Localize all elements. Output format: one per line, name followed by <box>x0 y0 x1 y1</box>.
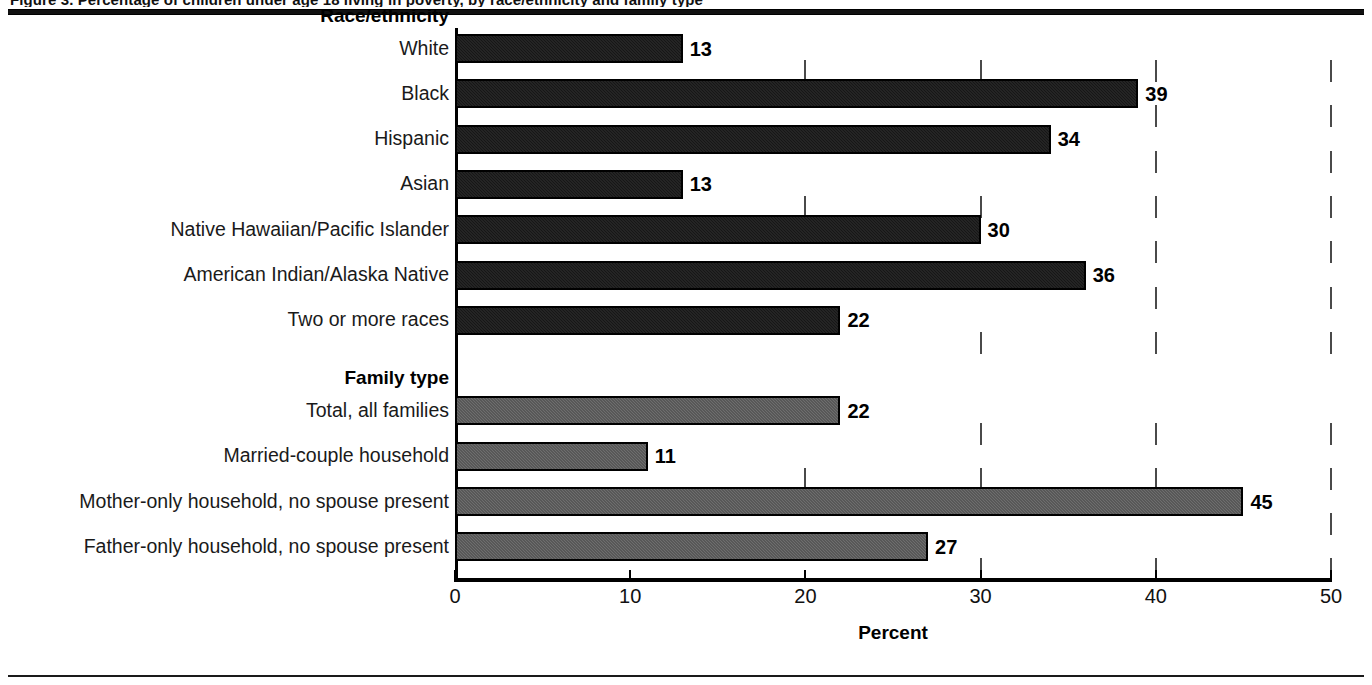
x-axis-tick-label: 10 <box>619 586 641 606</box>
category-label: American Indian/Alaska Native <box>4 265 449 285</box>
grid-mark <box>1330 332 1332 354</box>
grid-mark <box>1330 60 1332 82</box>
grid-mark <box>1330 241 1332 263</box>
x-axis-tick-label: 20 <box>794 586 816 606</box>
grid-mark <box>1330 513 1332 535</box>
grid-mark <box>1155 105 1157 127</box>
x-axis-tick-label: 30 <box>969 586 991 606</box>
grid-mark <box>1155 241 1157 263</box>
x-axis-tick <box>629 570 631 582</box>
category-label: Mother-only household, no spouse present <box>4 492 449 512</box>
grid-mark <box>1330 287 1332 309</box>
grid-mark <box>1330 105 1332 127</box>
grid-mark <box>1155 60 1157 82</box>
bottom-rule <box>8 675 1364 677</box>
x-axis-tick-label: 0 <box>449 586 460 606</box>
bar <box>455 261 1086 290</box>
grid-mark <box>1330 196 1332 218</box>
bar-value-label: 39 <box>1145 84 1167 104</box>
grid-mark <box>980 423 982 445</box>
bar-chart: Race/ethnicityWhiteBlackHispanicAsianNat… <box>0 18 1372 658</box>
bar <box>455 306 840 335</box>
category-label: Native Hawaiian/Pacific Islander <box>4 220 449 240</box>
plot-area: 133934133036222211452701020304050Percent <box>455 18 1372 658</box>
bar-value-label: 22 <box>847 310 869 330</box>
x-axis-tick <box>1330 570 1332 582</box>
grid-mark <box>1330 151 1332 173</box>
category-label: Hispanic <box>4 129 449 149</box>
x-axis-tick <box>980 570 982 582</box>
bar-value-label: 13 <box>690 174 712 194</box>
bar <box>455 79 1138 108</box>
category-label: Father-only household, no spouse present <box>4 537 449 557</box>
category-label: Two or more races <box>4 310 449 330</box>
bar-value-label: 13 <box>690 39 712 59</box>
bar <box>455 34 683 63</box>
bar <box>455 487 1243 516</box>
grid-mark <box>1155 151 1157 173</box>
bar-value-label: 30 <box>988 220 1010 240</box>
bar-value-label: 22 <box>847 401 869 421</box>
bar-value-label: 27 <box>935 537 957 557</box>
chart-page: Figure 3. Percentage of children under a… <box>0 0 1372 685</box>
bar-value-label: 45 <box>1250 492 1272 512</box>
x-axis-tick <box>1155 570 1157 582</box>
x-axis-tick <box>804 570 806 582</box>
group-header-family-type: Family type <box>4 368 449 387</box>
bar <box>455 532 928 561</box>
x-axis-tick <box>454 570 456 582</box>
bar <box>455 442 648 471</box>
bar-value-label: 36 <box>1093 265 1115 285</box>
x-axis-title: Percent <box>455 622 1331 644</box>
bar <box>455 396 840 425</box>
group-header-race-ethnicity: Race/ethnicity <box>4 6 449 25</box>
bar-value-label: 34 <box>1058 129 1080 149</box>
grid-mark <box>1155 196 1157 218</box>
bar-value-label: 11 <box>655 446 676 466</box>
grid-mark <box>1330 423 1332 445</box>
bar <box>455 125 1051 154</box>
category-label: Total, all families <box>4 401 449 421</box>
grid-mark <box>1155 287 1157 309</box>
x-axis-line <box>455 578 1331 582</box>
grid-mark <box>1330 468 1332 490</box>
category-label: White <box>4 39 449 59</box>
grid-mark <box>1155 423 1157 445</box>
bar <box>455 170 683 199</box>
category-label: Asian <box>4 174 449 194</box>
grid-mark <box>980 332 982 354</box>
bar <box>455 215 981 244</box>
grid-mark <box>1155 332 1157 354</box>
x-axis-tick-label: 40 <box>1145 586 1167 606</box>
category-label: Married-couple household <box>4 446 449 466</box>
category-label: Black <box>4 84 449 104</box>
x-axis-tick-label: 50 <box>1320 586 1342 606</box>
